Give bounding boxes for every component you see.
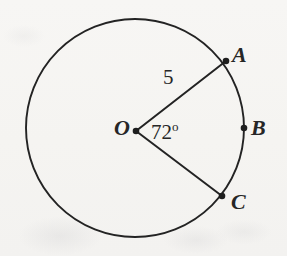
central-angle-measure-label: 72o [151, 120, 179, 143]
circle-diagram-svg [0, 0, 287, 256]
radius-segment-oc [136, 131, 222, 196]
angle-value: 72 [151, 120, 172, 144]
radius-length-label: 5 [163, 67, 174, 88]
point-marker-c [219, 193, 226, 200]
geometry-figure: A B C O 72o 5 [0, 0, 287, 256]
point-label-b: B [251, 117, 266, 139]
point-marker-a [223, 58, 230, 65]
degree-symbol: o [172, 119, 179, 134]
point-marker-o [133, 128, 140, 135]
point-label-a: A [232, 44, 247, 66]
point-marker-b [241, 125, 248, 132]
radius-segment-oa [136, 61, 226, 131]
point-label-o: O [114, 117, 130, 139]
point-label-c: C [231, 191, 246, 213]
